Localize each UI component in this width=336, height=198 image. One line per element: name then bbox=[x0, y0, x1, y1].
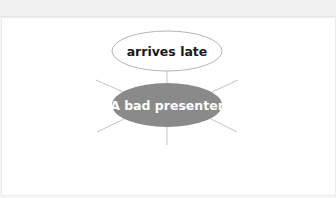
branch-node-label: arrives late bbox=[127, 44, 208, 59]
branch-node-arrives-late[interactable]: arrives late bbox=[112, 31, 222, 71]
center-node-label: A bad presenter bbox=[110, 98, 225, 113]
connector-upper-left bbox=[96, 80, 123, 92]
mind-map-diagram: arrives late A bad presenter bbox=[0, 0, 336, 198]
connector-upper-right bbox=[212, 80, 238, 92]
connector-lower-right bbox=[211, 119, 237, 132]
center-node[interactable]: A bad presenter bbox=[110, 83, 225, 127]
connector-lower-left bbox=[97, 119, 124, 132]
